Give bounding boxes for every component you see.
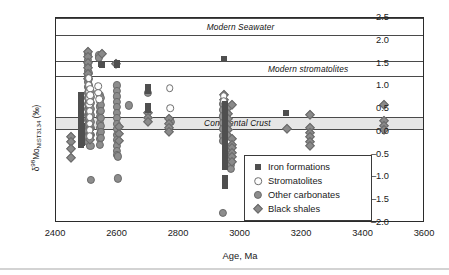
- y-axis-minor-tick: [423, 75, 424, 76]
- y-axis-minor-tick: [423, 121, 424, 122]
- y-axis-minor-tick: [423, 52, 424, 53]
- x-axis-tick: [364, 221, 365, 222]
- legend-marker-icon: [252, 160, 266, 174]
- x-axis-tick-label: 3200: [291, 228, 312, 238]
- y-axis-minor-tick: [423, 29, 424, 30]
- x-axis-tick: [118, 17, 119, 18]
- y-axis-tick: [423, 177, 424, 178]
- y-axis-tick: [55, 177, 56, 178]
- y-axis-title: δ98MoNIST3134 (‰): [29, 104, 42, 171]
- y-axis-tick: [55, 132, 56, 133]
- y-axis-tick-label: 1.0: [376, 80, 389, 90]
- y-axis-tick-label: –1.5: [371, 194, 389, 204]
- y-axis-tick: [423, 155, 424, 156]
- x-axis-tick: [56, 17, 57, 18]
- data-point-iron-formations: [222, 183, 228, 189]
- y-axis-minor-tick: [55, 52, 56, 53]
- legend-item-iron-formations[interactable]: Iron formations: [252, 160, 365, 174]
- x-axis-tick: [179, 221, 180, 222]
- data-point-iron-formations: [222, 164, 228, 170]
- data-point-iron-formations: [99, 62, 105, 68]
- y-axis-minor-tick: [55, 75, 56, 76]
- x-axis-minor-tick: [271, 17, 272, 18]
- x-axis-minor-tick: [271, 221, 272, 222]
- x-axis-tick-label: 3600: [414, 228, 435, 238]
- data-point-iron-formations: [79, 140, 85, 146]
- x-axis-tick-label: 2600: [106, 228, 127, 238]
- legend-symbol: [255, 164, 261, 170]
- y-axis-tick: [423, 200, 424, 201]
- x-axis-tick: [118, 221, 119, 222]
- x-axis-title: Age, Ma: [223, 250, 258, 261]
- legend-item-label: Black shales: [266, 204, 320, 214]
- legend-symbol: [254, 177, 262, 185]
- legend-item-black-shales[interactable]: Black shales: [252, 202, 365, 216]
- reference-band-label-modern-stromatolites: Modern stromatolites: [268, 64, 348, 74]
- x-axis-minor-tick: [394, 17, 395, 18]
- x-axis-minor-tick: [333, 17, 334, 18]
- y-axis-tick: [55, 109, 56, 110]
- x-axis-tick-label: 3000: [229, 228, 250, 238]
- x-axis-minor-tick: [148, 17, 149, 18]
- y-axis-minor-tick: [423, 212, 424, 213]
- data-point-stromatolites: [95, 95, 103, 103]
- y-axis-minor-tick: [55, 143, 56, 144]
- x-axis-minor-tick: [87, 17, 88, 18]
- y-axis-title-text: δ98MoNIST3134 (‰): [31, 104, 40, 171]
- y-axis-tick: [423, 18, 424, 19]
- data-point-stromatolites: [87, 98, 95, 106]
- data-point-stromatolites: [166, 84, 174, 92]
- data-point-other-carbonates: [113, 152, 121, 160]
- y-axis-tick: [423, 41, 424, 42]
- x-axis-minor-tick: [210, 221, 211, 222]
- x-axis-tick: [56, 221, 57, 222]
- x-axis-tick-label: 3400: [352, 228, 373, 238]
- y-axis-tick: [423, 132, 424, 133]
- data-point-iron-formations: [145, 88, 151, 94]
- data-point-iron-formations: [221, 56, 227, 62]
- data-point-other-carbonates: [219, 209, 227, 217]
- legend-item-other-carbonates[interactable]: Other carbonates: [252, 188, 365, 202]
- legend-item-stromatolites[interactable]: Stromatolites: [252, 174, 365, 188]
- legend-marker-icon: [252, 188, 266, 202]
- y-axis-minor-tick: [55, 166, 56, 167]
- y-axis-minor-tick: [423, 98, 424, 99]
- y-axis-tick: [55, 18, 56, 19]
- y-axis-minor-tick: [423, 189, 424, 190]
- legend-symbol: [254, 191, 262, 199]
- y-axis-tick: [55, 86, 56, 87]
- y-axis-tick: [423, 86, 424, 87]
- y-axis-tick-label: 2.0: [376, 35, 389, 45]
- y-axis-minor-tick: [55, 98, 56, 99]
- y-axis-tick-label: 0.5: [376, 103, 389, 113]
- x-axis-minor-tick: [394, 221, 395, 222]
- legend-item-label: Stromatolites: [266, 176, 322, 186]
- reference-band-label-modern-seawater: Modern Seawater: [207, 22, 275, 32]
- y-axis-tick: [55, 200, 56, 201]
- data-point-other-carbonates: [113, 174, 121, 182]
- legend: Iron formationsStromatolitesOther carbon…: [244, 155, 372, 221]
- x-axis-tick-label: 2400: [45, 228, 66, 238]
- x-axis-minor-tick: [148, 221, 149, 222]
- y-axis-minor-tick: [55, 29, 56, 30]
- data-point-stromatolites: [167, 104, 175, 112]
- x-axis-tick: [302, 221, 303, 222]
- y-axis-tick: [423, 64, 424, 65]
- y-axis-minor-tick: [55, 189, 56, 190]
- legend-item-label: Iron formations: [266, 162, 330, 172]
- y-axis-minor-tick: [55, 121, 56, 122]
- reference-band-label-continental-crust: Continental Crust: [204, 118, 271, 128]
- y-axis-minor-tick: [55, 212, 56, 213]
- y-axis-tick-label: –1.0: [371, 171, 389, 181]
- x-axis-tick: [241, 221, 242, 222]
- y-axis-tick: [55, 64, 56, 65]
- figure-scatter-mo-isotopes: δ98MoNIST3134 (‰) Modern SeawaterModern …: [0, 0, 449, 275]
- y-axis-tick-label: –2.0: [371, 217, 389, 227]
- data-point-iron-formations: [145, 107, 151, 113]
- data-point-black-shales: [66, 153, 76, 163]
- y-axis-minor-tick: [423, 166, 424, 167]
- footer-divider: [0, 268, 449, 270]
- data-point-other-carbonates: [97, 134, 105, 142]
- data-point-iron-formations: [114, 62, 120, 68]
- x-axis-tick: [302, 17, 303, 18]
